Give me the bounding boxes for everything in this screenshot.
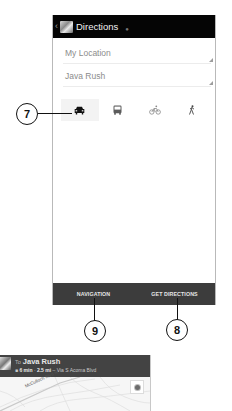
start-location-value: My Location xyxy=(65,48,111,58)
bus-icon xyxy=(113,105,122,115)
mode-tab-transit[interactable] xyxy=(99,99,137,121)
destination-heading: ToJava Rush xyxy=(15,357,60,366)
callout-leader-line xyxy=(94,298,95,321)
callout-9: 9 xyxy=(84,320,106,342)
bottom-action-bar: NAVIGATION GET DIRECTIONS xyxy=(53,283,215,305)
page-title: Directions xyxy=(76,21,118,32)
callout-leader-line xyxy=(177,298,178,320)
mode-tab-bicycling[interactable] xyxy=(136,99,174,121)
navigation-preview: ToJava Rush ■ 6 min · 2.5 mi – Via S Aco… xyxy=(0,355,151,411)
start-location-field[interactable]: My Location xyxy=(63,45,211,64)
maps-app-icon xyxy=(0,357,11,370)
separator: · xyxy=(34,367,36,373)
navigation-button[interactable]: NAVIGATION xyxy=(53,291,134,297)
map-streets xyxy=(0,377,151,411)
car-icon xyxy=(74,106,85,115)
route-via: Via S Acoma Blvd xyxy=(57,367,97,373)
route-duration: 6 min xyxy=(19,367,32,373)
travel-mode-tabs xyxy=(61,99,211,121)
my-location-icon xyxy=(135,385,140,390)
destination-name: Java Rush xyxy=(23,357,61,366)
to-label: To xyxy=(15,359,21,365)
car-icon: ■ xyxy=(15,367,18,373)
status-indicator-icon: ● xyxy=(125,26,129,32)
callout-leader-line xyxy=(38,113,72,114)
maps-app-icon[interactable] xyxy=(60,21,73,33)
destination-field[interactable]: Java Rush xyxy=(63,68,211,87)
walking-icon xyxy=(188,105,196,115)
app-bar: ‹ Directions ● xyxy=(53,15,215,38)
callout-7: 7 xyxy=(16,103,38,125)
directions-screen: ‹ Directions ● My Location Java Rush xyxy=(52,15,216,305)
bicycle-icon xyxy=(149,105,161,115)
dropdown-corner-icon xyxy=(209,81,213,85)
destination-value: Java Rush xyxy=(65,71,105,81)
dropdown-corner-icon xyxy=(209,58,213,62)
map-view[interactable]: McCulloch Blvd N xyxy=(0,377,150,411)
callout-8: 8 xyxy=(166,319,188,341)
mode-tab-walking[interactable] xyxy=(174,99,212,121)
get-directions-button[interactable]: GET DIRECTIONS xyxy=(134,291,215,297)
mode-tab-driving[interactable] xyxy=(61,99,99,121)
navigation-header: ToJava Rush ■ 6 min · 2.5 mi – Via S Aco… xyxy=(0,355,150,377)
my-location-button[interactable] xyxy=(130,380,144,394)
